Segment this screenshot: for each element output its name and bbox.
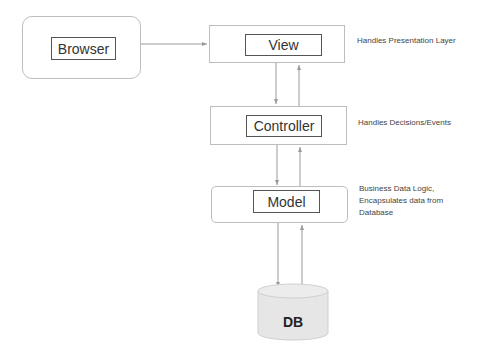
view-label-box: View (245, 34, 322, 56)
model-description: Business Data Logic, Encapsulates data f… (359, 183, 443, 219)
db-label: DB (275, 312, 311, 332)
view-description: Handles Presentation Layer (357, 35, 456, 47)
model-label-box: Model (253, 190, 320, 213)
browser-label-box: Browser (51, 37, 116, 60)
controller-label-box: Controller (246, 115, 322, 137)
controller-description: Handles Decisions/Events (358, 117, 451, 129)
